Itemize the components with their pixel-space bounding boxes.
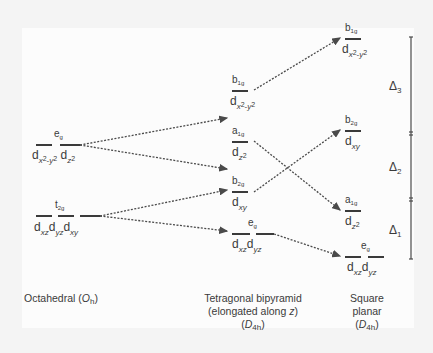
energy-level-line [368,256,384,258]
energy-level-line [345,38,361,40]
symmetry-label: b1g [232,75,244,88]
symmetry-label: a1g [345,195,357,208]
energy-level-line [345,210,361,212]
orbital-label: dxy [232,196,247,214]
symmetry-label: t2g [55,200,64,213]
diagram-canvas: eg dx2-y2 dz2 t2g dxzdyzdxy b1g dx2-y2 a… [22,28,414,328]
energy-level-line [36,144,52,146]
caption-line: Tetragonal bipyramid [192,292,314,305]
caption-line: planar [342,305,392,318]
energy-level-line [232,141,248,143]
energy-level-line [232,233,250,235]
energy-level-line [80,215,100,217]
caption-tetragonal: Tetragonal bipyramid (elongated along z)… [192,292,314,334]
symmetry-label: eg [361,241,370,254]
symmetry-label: b2g [232,176,244,189]
arrow-eg-to-eg [274,234,340,256]
energy-level-line [232,90,248,92]
caption-octahedral: Octahedral (Oh) [24,292,98,308]
orbital-label: dz2 [345,215,360,233]
energy-gap-axis [409,37,413,259]
orbital-label: dx2-y2 dz2 [32,149,75,167]
arrow-t2g-to-eg [100,216,227,231]
energy-level-line [345,130,361,132]
orbital-label: dxzdyz [232,238,261,256]
energy-level-line [345,256,361,258]
symmetry-label: eg [248,218,257,231]
arrow-eg-to-a1g [80,145,227,169]
orbital-label: dx2-y2 [230,95,255,113]
symmetry-label: b2g [345,115,357,128]
energy-level-line [60,144,80,146]
arrow-t2g-to-b2g [100,190,227,216]
caption-line: (D4h) [342,318,392,334]
delta1-label: Δ1 [389,224,401,241]
arrow-b2g-to-b2g [254,130,340,192]
caption-line: (elongated along z) [192,305,314,318]
orbital-label: dxzdyzdxy [34,221,78,239]
energy-level-line [256,233,274,235]
symmetry-label: eg [54,129,63,142]
symmetry-label: b1g [345,23,357,36]
orbital-label: dxzdyz [347,261,376,279]
arrow-a1g-to-a1g [254,141,340,210]
symmetry-label: a1g [232,126,244,139]
caption-square-planar: Square planar (D4h) [342,292,392,334]
delta2-label: Δ2 [389,161,401,178]
delta3-label: Δ3 [389,80,401,97]
energy-level-line [58,215,74,217]
orbital-label: dx2-y2 [342,43,367,61]
caption-line: Square [342,292,392,305]
arrow-b1g-to-b1g [254,38,340,90]
caption-line: (D4h) [192,318,314,334]
arrow-eg-to-b1g [80,118,227,145]
orbital-label: dz2 [232,146,247,164]
energy-level-line [232,191,248,193]
energy-level-line [36,215,52,217]
correlation-arrows [22,28,414,328]
orbital-label: dxy [345,135,360,153]
